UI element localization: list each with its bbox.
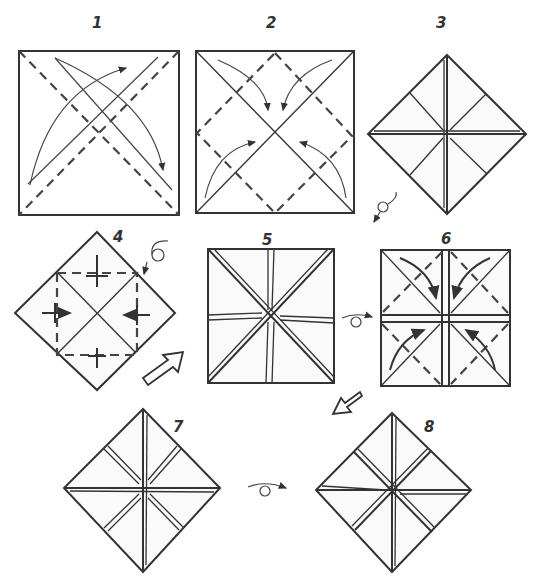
step-7: 7 xyxy=(64,409,286,572)
step-3: 3 xyxy=(368,14,526,222)
turn-over-icon xyxy=(248,484,286,496)
turn-over-icon xyxy=(342,315,372,327)
step-number: 8 xyxy=(424,418,434,436)
step-number: 7 xyxy=(173,418,184,436)
step-number: 4 xyxy=(112,228,123,246)
step-number: 3 xyxy=(436,14,446,32)
step-1: 1 xyxy=(19,14,179,215)
step-5: 5 xyxy=(208,231,372,383)
turn-over-icon xyxy=(374,192,396,222)
next-step-arrow-icon xyxy=(143,352,183,385)
step-6: 6 xyxy=(333,230,510,414)
step-number: 1 xyxy=(92,14,102,32)
turn-over-icon xyxy=(144,241,168,274)
step-2: 2 xyxy=(196,14,354,213)
step-8: 8 xyxy=(316,413,471,572)
origami-diagram: 1 2 3 xyxy=(0,0,538,586)
step-4: 4 xyxy=(15,228,183,390)
step-number: 5 xyxy=(262,231,272,249)
step-number: 2 xyxy=(266,14,276,32)
next-step-arrow-icon xyxy=(333,392,362,414)
step-number: 6 xyxy=(441,230,451,248)
